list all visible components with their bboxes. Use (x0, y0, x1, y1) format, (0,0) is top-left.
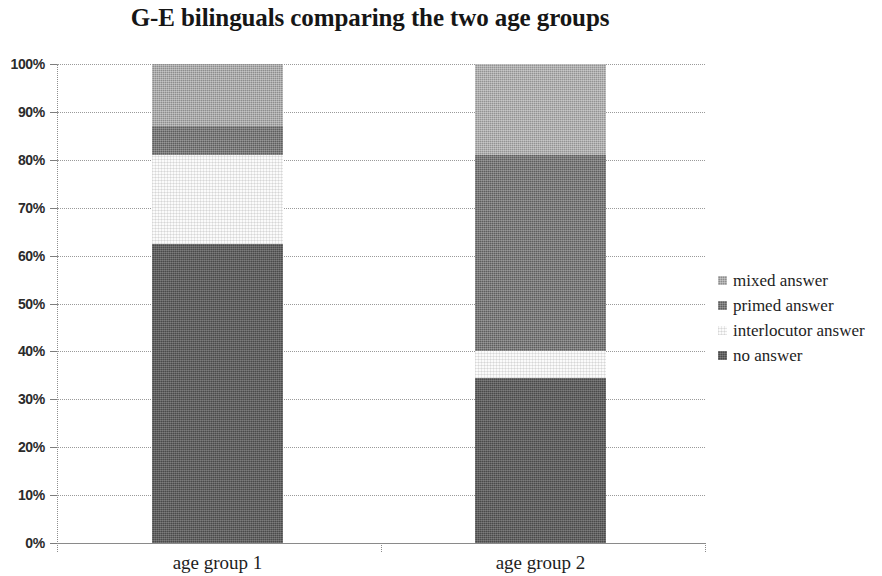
bar-segment-no-answer[interactable] (475, 378, 606, 543)
y-axis-label: 60% (0, 248, 45, 264)
y-axis-label: 30% (0, 391, 45, 407)
legend-item[interactable]: mixed answer (718, 268, 882, 293)
legend-label: primed answer (733, 296, 834, 316)
x-axis-label-2: age group 2 (496, 552, 586, 574)
y-axis-label: 70% (0, 200, 45, 216)
legend-swatch-icon (718, 276, 727, 285)
bar-segment-mixed-answer[interactable] (475, 64, 606, 155)
bar-segment-interlocutor-answer[interactable] (152, 155, 283, 244)
bar-age-group-2[interactable] (475, 64, 606, 543)
bar-segment-interlocutor-answer[interactable] (475, 351, 606, 377)
y-axis-tick (50, 208, 57, 209)
y-axis-label: 90% (0, 104, 45, 120)
y-axis-tick (50, 351, 57, 352)
y-axis-label: 100% (0, 56, 45, 72)
y-axis-tick (50, 304, 57, 305)
y-axis-label: 40% (0, 343, 45, 359)
y-axis-label: 50% (0, 296, 45, 312)
chart-legend: mixed answerprimed answerinterlocutor an… (718, 268, 882, 368)
x-axis-tick (705, 543, 706, 552)
bar-segment-primed-answer[interactable] (152, 126, 283, 155)
plot-area (57, 64, 705, 543)
bar-segment-mixed-answer[interactable] (152, 64, 283, 126)
legend-item[interactable]: no answer (718, 343, 882, 368)
y-axis-tick (50, 543, 57, 544)
y-axis-tick (50, 160, 57, 161)
legend-label: mixed answer (733, 271, 828, 291)
x-axis-tick (381, 543, 382, 552)
y-axis-tick (50, 447, 57, 448)
legend-item[interactable]: interlocutor answer (718, 318, 882, 343)
y-axis-tick (50, 64, 57, 65)
legend-item[interactable]: primed answer (718, 293, 882, 318)
legend-label: no answer (733, 346, 802, 366)
legend-swatch-icon (718, 301, 727, 310)
y-axis-label: 20% (0, 439, 45, 455)
y-axis-tick (50, 112, 57, 113)
y-axis-label: 0% (0, 535, 45, 551)
legend-swatch-icon (718, 326, 727, 335)
legend-swatch-icon (718, 351, 727, 360)
y-axis-tick (50, 256, 57, 257)
y-axis-tick (50, 399, 57, 400)
bar-age-group-1[interactable] (152, 64, 283, 543)
y-axis-label: 10% (0, 487, 45, 503)
chart-title: G-E bilinguals comparing the two age gro… (0, 4, 740, 32)
bar-segment-no-answer[interactable] (152, 244, 283, 543)
y-axis-tick (50, 495, 57, 496)
y-axis-label: 80% (0, 152, 45, 168)
bar-segment-primed-answer[interactable] (475, 155, 606, 351)
legend-label: interlocutor answer (733, 321, 865, 341)
x-axis-tick (57, 543, 58, 552)
x-axis-label-1: age group 1 (173, 552, 263, 574)
